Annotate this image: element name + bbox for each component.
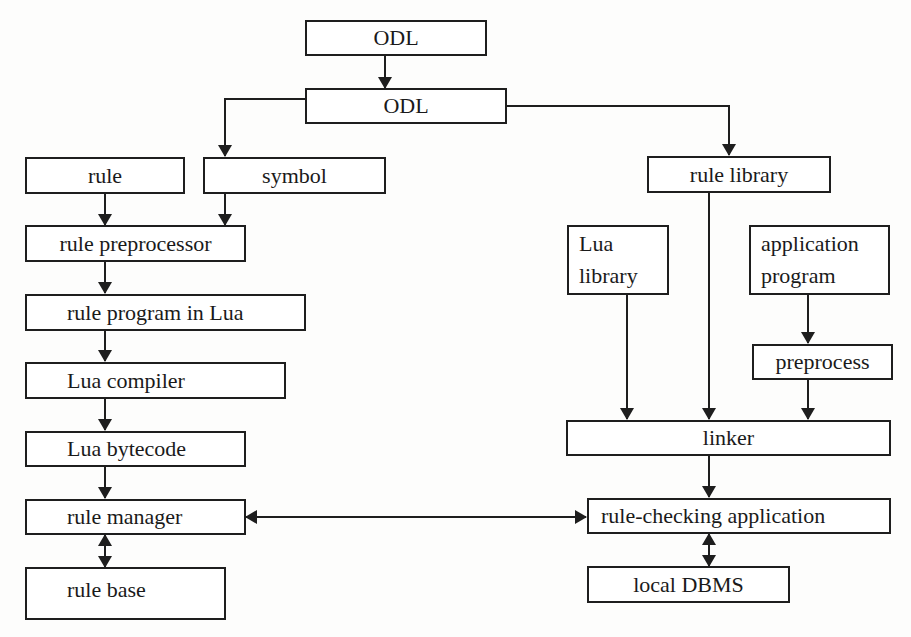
node-label: linker xyxy=(703,425,754,451)
node-rule-program-in-lua: rule program in Lua xyxy=(25,294,306,331)
node-label: ODL xyxy=(383,93,428,119)
node-label-line1: application xyxy=(761,228,859,260)
node-label: rule-checking application xyxy=(601,503,825,529)
node-rule-base: rule base xyxy=(25,567,226,620)
node-label: rule xyxy=(88,163,122,189)
node-label: local DBMS xyxy=(633,572,744,598)
node-lua-library: Lua library xyxy=(567,225,669,295)
node-label: ODL xyxy=(373,25,418,51)
node-linker: linker xyxy=(566,420,891,456)
node-label: rule program in Lua xyxy=(67,300,244,326)
node-odl-source: ODL xyxy=(305,20,487,56)
node-symbol: symbol xyxy=(203,157,386,194)
diagram-canvas: ODL ODL rule symbol rule library rule pr… xyxy=(0,0,911,637)
node-label: symbol xyxy=(262,163,327,189)
edge-odl-to-rule-library xyxy=(506,106,729,155)
node-label: preprocess xyxy=(775,349,869,375)
node-local-dbms: local DBMS xyxy=(587,566,790,603)
node-lua-bytecode: Lua bytecode xyxy=(25,431,246,467)
node-label: rule manager xyxy=(67,504,182,530)
node-rule-manager: rule manager xyxy=(25,499,246,535)
node-rule: rule xyxy=(25,157,185,194)
node-label: Lua compiler xyxy=(67,368,185,394)
node-label: rule library xyxy=(690,162,788,188)
node-label: rule base xyxy=(67,577,146,603)
node-lua-compiler: Lua compiler xyxy=(25,362,286,399)
node-rule-library: rule library xyxy=(647,156,831,193)
node-label-line2: program xyxy=(761,260,836,292)
node-odl-parsed: ODL xyxy=(305,88,507,124)
node-label: Lua bytecode xyxy=(67,436,186,462)
edge-odl-to-symbol xyxy=(225,99,305,156)
node-rule-preprocessor: rule preprocessor xyxy=(25,225,246,262)
node-label: rule preprocessor xyxy=(59,231,211,257)
node-label-line2: library xyxy=(579,260,638,292)
node-preprocess: preprocess xyxy=(752,344,893,380)
node-label-line1: Lua xyxy=(579,228,613,260)
node-application-program: application program xyxy=(749,225,890,295)
node-rule-checking-application: rule-checking application xyxy=(587,498,891,534)
